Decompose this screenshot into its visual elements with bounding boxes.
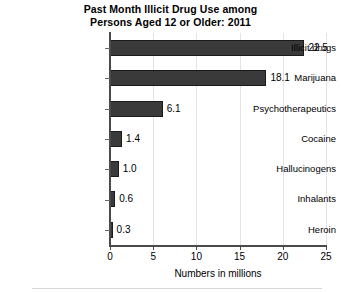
x-tick-label-5: 5	[138, 251, 168, 262]
chart-title-line-2: Persons Aged 12 or Older: 2011	[0, 16, 341, 29]
x-tick-0	[110, 246, 111, 250]
x-axis-title: Numbers in millions	[110, 268, 326, 279]
figure-bottom-rule	[32, 288, 322, 289]
x-axis-line	[109, 245, 327, 247]
y-tick-2	[105, 109, 110, 110]
bar-psychotherapeutics	[110, 101, 163, 117]
x-tick-label-20: 20	[268, 251, 298, 262]
bar-hallucinogens	[110, 161, 119, 177]
y-tick-1	[105, 78, 110, 79]
y-tick-3	[105, 139, 110, 140]
x-tick-label-15: 15	[225, 251, 255, 262]
x-tick-10	[196, 246, 197, 250]
bar-value-label: 1.4	[122, 131, 140, 147]
chart-title: Past Month Illicit Drug Use among Person…	[0, 3, 341, 29]
x-tick-label-25: 25	[311, 251, 341, 262]
y-tick-6	[105, 230, 110, 231]
bar-chart: Past Month Illicit Drug Use among Person…	[0, 0, 341, 292]
x-tick-20	[283, 246, 284, 250]
bar-value-label: 0.6	[115, 191, 133, 207]
x-tick-15	[240, 246, 241, 250]
category-label-cocaine: Cocaine	[237, 133, 341, 145]
bar-cocaine	[110, 131, 122, 147]
category-label-inhalants: Inhalants	[237, 193, 341, 205]
x-tick-25	[326, 246, 327, 250]
y-tick-0	[105, 48, 110, 49]
category-label-psychotherapeutics: Psychotherapeutics	[237, 103, 341, 115]
bar-value-label: 0.3	[113, 222, 131, 238]
bar-value-label: 6.1	[163, 101, 181, 117]
x-tick-label-0: 0	[95, 251, 125, 262]
category-label-hallucinogens: Hallucinogens	[237, 163, 341, 175]
y-tick-5	[105, 200, 110, 201]
x-tick-5	[153, 246, 154, 250]
category-label-illicit-drugs: Illicit drugs	[237, 42, 341, 54]
x-tick-label-10: 10	[181, 251, 211, 262]
y-tick-4	[105, 169, 110, 170]
chart-title-line-1: Past Month Illicit Drug Use among	[0, 3, 341, 16]
bar-value-label: 1.0	[119, 161, 137, 177]
category-label-heroin: Heroin	[237, 224, 341, 236]
category-label-marijuana: Marijuana	[237, 72, 341, 84]
